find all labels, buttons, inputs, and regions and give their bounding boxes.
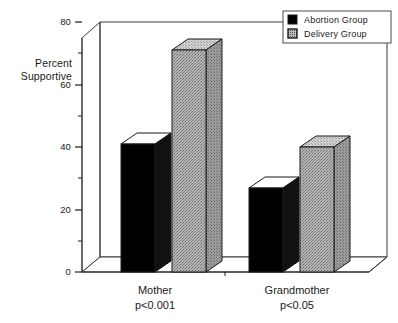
category-name: Grandmother xyxy=(237,283,357,298)
x-category-label-grandmother: Grandmother p<0.05 xyxy=(237,283,357,313)
category-name: Mother xyxy=(110,283,200,298)
y-tick-label-0: 0 xyxy=(45,266,71,277)
bar-grandmother-abortion-group xyxy=(249,177,299,272)
y-tick-label-40: 40 xyxy=(45,141,71,152)
y-tick-label-80: 80 xyxy=(45,16,71,27)
bar-mother-delivery-group xyxy=(172,39,222,272)
bar-mother-abortion-group xyxy=(121,133,171,272)
x-category-label-mother: Mother p<0.001 xyxy=(110,283,200,313)
category-pvalue: p<0.05 xyxy=(237,298,357,313)
y-tick-label-60: 60 xyxy=(45,79,71,90)
y-axis-ticks xyxy=(75,22,82,272)
legend-label-delivery-group: Delivery Group xyxy=(304,29,367,39)
y-axis-title-line-1: Percent xyxy=(6,57,72,70)
legend-swatch-abortion-group xyxy=(288,15,297,24)
chart-figure: Percent Supportive 80 60 40 20 0 Mother … xyxy=(0,0,398,323)
bar-grandmother-delivery-group xyxy=(300,136,350,272)
y-tick-label-20: 20 xyxy=(45,204,71,215)
legend-label-abortion-group: Abortion Group xyxy=(304,15,368,25)
legend-swatch-delivery-group xyxy=(288,29,297,38)
category-pvalue: p<0.001 xyxy=(110,298,200,313)
